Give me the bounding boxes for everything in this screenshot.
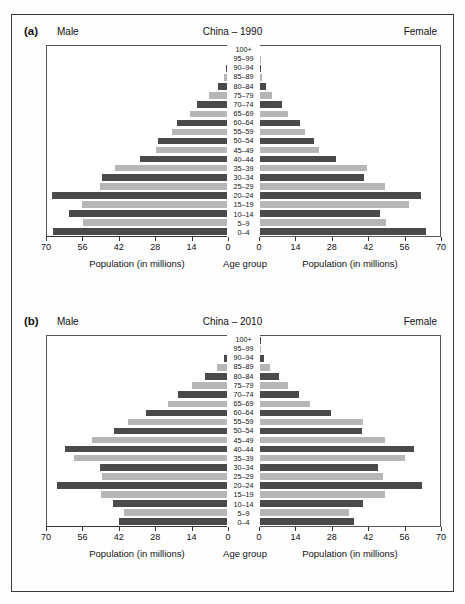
pyramid-row: [47, 73, 227, 82]
pyramid-row: [47, 399, 227, 408]
panel-a-right-axis: 01428425670: [259, 237, 441, 259]
pyramid-row: [260, 490, 440, 499]
pyramid-row: [260, 100, 440, 109]
pyramid-row: [260, 209, 440, 218]
pyramid-row: [260, 417, 440, 426]
pyramid-bar: [114, 428, 227, 435]
axis-tick: [441, 527, 442, 531]
age-group-label: 5–9: [227, 509, 260, 518]
pyramid-row: [47, 118, 227, 127]
axis-tick-label: 14: [187, 242, 197, 252]
panel-b-title: China – 2010: [12, 316, 453, 327]
pyramid-row: [47, 182, 227, 191]
pyramid-bar: [156, 147, 227, 154]
pyramid-bar: [102, 473, 227, 480]
age-group-label: 0–4: [227, 518, 260, 527]
axis-tick: [82, 237, 83, 241]
pyramid-row: [47, 426, 227, 435]
age-group-label: 20–24: [227, 191, 260, 200]
panel-a-right-axis-title: Population (in millions): [259, 258, 441, 269]
pyramid-bar: [260, 464, 378, 471]
pyramid-row: [47, 436, 227, 445]
pyramid-bar: [260, 401, 310, 408]
pyramid-bar: [260, 174, 364, 181]
pyramid-row: [260, 499, 440, 508]
age-group-label: 30–34: [227, 173, 260, 182]
panel-a-title: China – 1990: [12, 26, 453, 37]
pyramid-bar: [260, 219, 386, 226]
pyramid-bar: [260, 210, 380, 217]
pyramid-row: [260, 64, 440, 73]
pyramid-row: [260, 191, 440, 200]
pyramid-bar: [260, 437, 385, 444]
axis-tick: [228, 527, 229, 531]
pyramid-row: [260, 363, 440, 372]
age-group-label: 50–54: [227, 426, 260, 435]
age-group-label: 20–24: [227, 481, 260, 490]
pyramid-bar: [260, 482, 422, 489]
pyramid-row: [47, 354, 227, 363]
age-group-label: 15–19: [227, 490, 260, 499]
pyramid-row: [47, 472, 227, 481]
pyramid-row: [260, 445, 440, 454]
axis-tick: [295, 527, 296, 531]
pyramid-bar: [260, 500, 363, 507]
panel-a-male-bars: [47, 46, 227, 236]
panel-b-male-bars: [47, 336, 227, 526]
axis-tick-label: 56: [77, 242, 87, 252]
axis-tick-label: 70: [41, 532, 51, 542]
figure-frame: (a) Male China – 1990 Female 0–45–910–14…: [11, 14, 454, 592]
age-group-label: 60–64: [227, 408, 260, 417]
pyramid-bar: [101, 491, 227, 498]
pyramid-bar: [260, 192, 421, 199]
panel-b-female-bars: [260, 336, 440, 526]
pyramid-bar: [260, 473, 383, 480]
panel-a-female-plot: [260, 45, 441, 237]
axis-tick-label: 28: [327, 532, 337, 542]
pyramid-row: [47, 55, 227, 64]
pyramid-bar: [100, 183, 227, 190]
pyramid-bar: [217, 364, 227, 371]
pyramid-bar: [260, 156, 336, 163]
pyramid-bar: [260, 428, 362, 435]
pyramid-row: [260, 354, 440, 363]
pyramid-bar: [113, 500, 227, 507]
pyramid-bar: [260, 455, 405, 462]
pyramid-row: [260, 155, 440, 164]
pyramid-row: [260, 372, 440, 381]
pyramid-row: [260, 390, 440, 399]
panel-b-right-axis-title: Population (in millions): [259, 548, 441, 559]
pyramid-row: [260, 73, 440, 82]
pyramid-row: [260, 173, 440, 182]
pyramid-row: [47, 146, 227, 155]
pyramid-row: [260, 408, 440, 417]
axis-tick-label: 14: [290, 532, 300, 542]
age-group-label: 95–99: [227, 344, 260, 353]
pyramid-bar: [119, 518, 227, 525]
age-group-label: 100+: [227, 335, 260, 344]
age-group-label: 70–74: [227, 390, 260, 399]
pyramid-row: [260, 46, 440, 55]
age-group-label: 40–44: [227, 155, 260, 164]
axis-tick-label: 0: [256, 532, 261, 542]
pyramid-row: [47, 390, 227, 399]
axis-tick: [259, 527, 260, 531]
axis-tick: [82, 527, 83, 531]
axis-tick-label: 56: [400, 532, 410, 542]
pyramid-bar: [177, 120, 227, 127]
pyramid-row: [260, 218, 440, 227]
pyramid-row: [47, 109, 227, 118]
pyramid-row: [260, 91, 440, 100]
pyramid-row: [47, 173, 227, 182]
figure-root: (a) Male China – 1990 Female 0–45–910–14…: [0, 0, 465, 604]
pyramid-bar: [260, 92, 272, 99]
pyramid-bar: [218, 83, 227, 90]
axis-tick: [155, 527, 156, 531]
age-group-label: 50–54: [227, 136, 260, 145]
axis-tick-label: 42: [363, 532, 373, 542]
panel-b-female-header: Female: [404, 316, 437, 327]
pyramid-row: [260, 508, 440, 517]
pyramid-row: [47, 218, 227, 227]
pyramid-row: [47, 499, 227, 508]
pyramid-row: [47, 336, 227, 345]
